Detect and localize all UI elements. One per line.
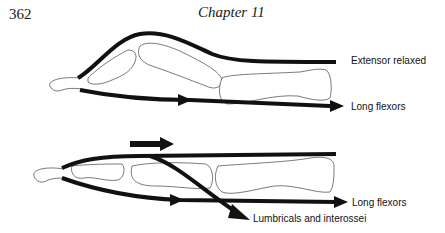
label-long-flexors-bottom: Long flexors	[352, 197, 406, 208]
bottom-finger	[34, 137, 348, 220]
top-finger	[50, 33, 344, 112]
label-extensor-relaxed: Extensor relaxed	[351, 55, 426, 66]
push-arrow-shaft	[130, 141, 160, 147]
label-lumbricals-interossei: Lumbricals and interossei	[253, 213, 366, 224]
proximal-phalanx	[220, 69, 332, 104]
fingertip-outline	[50, 78, 82, 91]
flexor-arrow-end-top	[330, 100, 344, 112]
flexor-arrow-mid-bottom	[170, 194, 184, 206]
proximal-phalanx-bottom	[215, 157, 334, 193]
distal-phalanx-bottom	[72, 164, 125, 180]
flexor-arrow-end-bottom	[334, 196, 348, 208]
label-long-flexors-top: Long flexors	[351, 101, 405, 112]
push-arrow-head	[160, 137, 174, 151]
fingertip-outline-bottom	[34, 168, 66, 182]
middle-phalanx	[139, 43, 223, 88]
flexor-arrow-mid-top	[178, 94, 192, 106]
